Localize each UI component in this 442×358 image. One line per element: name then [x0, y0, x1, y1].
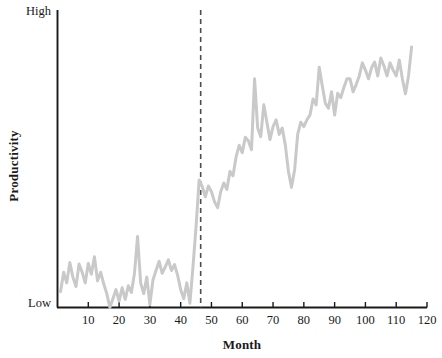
x-axis-title: Month — [57, 337, 427, 353]
chart-figure: Productivity Month High Low 102030405060… — [0, 0, 442, 358]
y-tick-label-high: High — [0, 4, 51, 19]
x-tick-label: 120 — [407, 313, 442, 328]
y-axis-title: Productivity — [6, 106, 22, 226]
productivity-series-line — [61, 47, 412, 308]
chart-plot-area — [0, 0, 442, 358]
y-tick-label-low: Low — [0, 296, 51, 311]
